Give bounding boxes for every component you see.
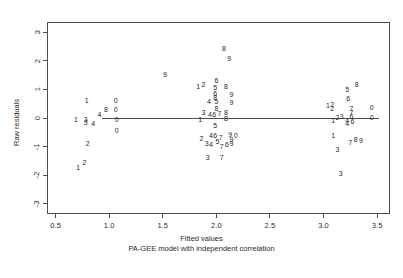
- data-point: 6: [212, 110, 216, 117]
- y-axis-tick: [43, 32, 47, 33]
- y-axis-tick-label: 1: [36, 85, 40, 94]
- data-point: 4: [345, 120, 349, 127]
- x-axis-tick: [162, 214, 163, 218]
- data-point: 4: [209, 140, 213, 147]
- x-axis-tick: [377, 214, 378, 218]
- data-point: 4: [98, 111, 102, 118]
- data-point: 3: [340, 112, 344, 119]
- data-point: 9: [227, 54, 231, 61]
- data-point: 9: [229, 139, 233, 146]
- data-point: 1: [198, 115, 202, 122]
- y-axis-tick: [43, 203, 47, 204]
- data-point: 0: [370, 104, 374, 111]
- data-point: 3: [336, 146, 340, 153]
- y-axis-tick: [43, 118, 47, 119]
- data-point: 0: [114, 97, 118, 104]
- x-axis-tick-label: 2.0: [211, 221, 222, 230]
- data-point: 5: [345, 86, 349, 93]
- data-point: 0: [234, 132, 238, 139]
- data-point: 4: [91, 119, 95, 126]
- data-point: 1: [76, 163, 80, 170]
- data-point: 2: [86, 140, 90, 147]
- data-point: 2: [330, 104, 334, 111]
- x-axis-title-main: Fitted values: [0, 234, 403, 244]
- y-axis-tick-label: 0: [36, 114, 40, 123]
- data-point: 7: [220, 153, 224, 160]
- data-point: 5: [214, 98, 218, 105]
- y-axis-tick-label: -2: [33, 171, 40, 180]
- y-axis-tick: [43, 175, 47, 176]
- x-axis-tick-label: 1.5: [157, 221, 168, 230]
- data-point: 1: [196, 82, 200, 89]
- data-point: 8: [104, 105, 108, 112]
- x-axis-tick-label: 1.0: [104, 221, 115, 230]
- data-point: 9: [163, 71, 167, 78]
- data-point: 1: [74, 116, 78, 123]
- x-axis-title: Fitted values PA-GEE model with independ…: [0, 234, 403, 254]
- data-point: 3: [206, 153, 210, 160]
- data-point: 5: [213, 122, 217, 129]
- data-point: 2: [199, 134, 203, 141]
- y-axis-tick: [43, 89, 47, 90]
- data-point: 6: [214, 76, 218, 83]
- x-axis-tick: [55, 214, 56, 218]
- x-axis-tick: [216, 214, 217, 218]
- data-point: 1: [331, 132, 335, 139]
- data-point: 0: [114, 105, 118, 112]
- data-point: 8: [224, 83, 228, 90]
- data-point: 2: [83, 158, 87, 165]
- y-axis-tick-label: 2: [36, 56, 40, 65]
- x-axis-tick-label: 3.0: [318, 221, 329, 230]
- data-point: 1: [331, 117, 335, 124]
- data-point: 0: [370, 114, 374, 121]
- data-point: 9: [359, 137, 363, 144]
- data-point: 0: [115, 127, 119, 134]
- x-axis-tick-label: 2.5: [265, 221, 276, 230]
- data-point: 0: [115, 115, 119, 122]
- data-point: 8: [222, 44, 226, 51]
- data-point: 2: [202, 81, 206, 88]
- x-axis-tick: [109, 214, 110, 218]
- data-point: 3: [84, 119, 88, 126]
- data-point: 4: [207, 97, 211, 104]
- x-axis-tick-label: 0.5: [50, 221, 61, 230]
- y-axis-tick-label: -1: [33, 142, 40, 151]
- data-point: 9: [229, 90, 233, 97]
- data-point: 1: [85, 97, 89, 104]
- data-point: 8: [224, 115, 228, 122]
- x-axis-tick-label: 3.5: [372, 221, 383, 230]
- data-point: 7: [220, 142, 224, 149]
- data-point: 3: [339, 170, 343, 177]
- data-point: 8: [355, 81, 359, 88]
- data-point: 6: [346, 94, 350, 101]
- y-axis-title: Raw residuals: [12, 99, 21, 146]
- data-point: 8: [354, 135, 358, 142]
- y-axis-tick-label: -3: [33, 199, 40, 208]
- y-axis-tick: [43, 60, 47, 61]
- data-point: 7: [348, 139, 352, 146]
- y-axis-tick-label: 3: [36, 28, 40, 37]
- residual-scatter-plot: 0.51.01.52.02.53.03.5 3210-1-2-3 1080413…: [0, 0, 403, 278]
- x-axis-tick: [269, 214, 270, 218]
- x-axis-title-sub: PA-GEE model with independent correlatio…: [0, 244, 403, 254]
- data-point: 6: [351, 117, 355, 124]
- x-axis-tick: [323, 214, 324, 218]
- data-point: 9: [229, 98, 233, 105]
- data-point: 7: [218, 110, 222, 117]
- y-axis-tick: [43, 146, 47, 147]
